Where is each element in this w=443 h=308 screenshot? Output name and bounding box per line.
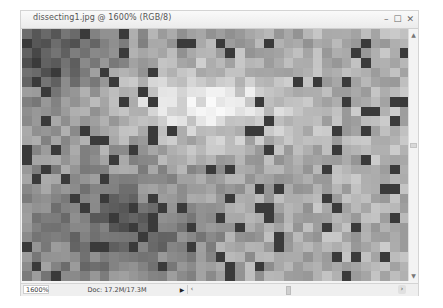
pixel [129, 77, 139, 87]
pixel [206, 232, 216, 242]
pixel [293, 107, 303, 117]
pixel [32, 155, 42, 165]
maximize-button[interactable]: ☐ [393, 13, 401, 25]
pixel [274, 271, 284, 281]
minimize-button[interactable]: – [384, 13, 389, 25]
pixel [284, 174, 294, 184]
pixel [167, 213, 177, 223]
pixel [41, 136, 51, 146]
pixel [322, 39, 332, 49]
pixel [32, 116, 42, 126]
pixel [313, 68, 323, 78]
pixel [313, 97, 323, 107]
pixel [138, 136, 148, 146]
pixel [80, 271, 90, 281]
pixel [41, 194, 51, 204]
pixel [148, 262, 158, 272]
vertical-scrollbar[interactable]: ▲ ▼ [408, 29, 418, 281]
pixel [167, 87, 177, 97]
pixel [235, 48, 245, 58]
pixel [313, 116, 323, 126]
pixel [148, 194, 158, 204]
pixel [196, 223, 206, 233]
pixel [342, 232, 352, 242]
pixel [225, 242, 235, 252]
scroll-down-icon[interactable]: ▼ [409, 271, 418, 280]
pixel [313, 271, 323, 281]
pixel [351, 126, 361, 136]
pixel [332, 48, 342, 58]
image-canvas[interactable] [22, 29, 410, 281]
pixel [80, 252, 90, 262]
pixel [284, 271, 294, 281]
pixel [332, 194, 342, 204]
pixel [167, 223, 177, 233]
vertical-scroll-thumb[interactable] [410, 143, 417, 148]
pixel [119, 203, 129, 213]
pixel [129, 184, 139, 194]
pixel [245, 174, 255, 184]
pixel [51, 242, 61, 252]
pixel [322, 232, 332, 242]
pixel [148, 165, 158, 175]
pixel [158, 116, 168, 126]
pixel [322, 174, 332, 184]
pixel [90, 184, 100, 194]
scroll-left-icon[interactable]: ‹ [187, 285, 196, 294]
pixel [100, 262, 110, 272]
pixel [32, 223, 42, 233]
pixel [61, 194, 71, 204]
pixel [390, 262, 400, 272]
status-menu-arrow-icon[interactable]: ▶ [178, 285, 186, 294]
pixel [274, 262, 284, 272]
pixel [167, 97, 177, 107]
pixel [100, 223, 110, 233]
pixel [380, 174, 390, 184]
pixel [90, 194, 100, 204]
pixel [119, 242, 129, 252]
pixel [138, 58, 148, 68]
pixel [41, 203, 51, 213]
pixel [51, 271, 61, 281]
pixel [41, 232, 51, 242]
scroll-up-icon[interactable]: ▲ [409, 30, 418, 39]
pixel [216, 184, 226, 194]
pixel [177, 232, 187, 242]
horizontal-scrollbar[interactable] [196, 285, 402, 294]
pixel [235, 174, 245, 184]
pixel [70, 155, 80, 165]
pixel [255, 242, 265, 252]
pixel [109, 136, 119, 146]
pixel [371, 107, 381, 117]
pixel [100, 87, 110, 97]
pixel [216, 262, 226, 272]
pixel [196, 48, 206, 58]
close-button[interactable]: ✕ [406, 13, 414, 25]
horizontal-scroll-thumb[interactable] [286, 286, 291, 295]
pixel [138, 155, 148, 165]
pixel [167, 136, 177, 146]
title-bar[interactable]: dissecting1.jpg @ 1600% (RGB/8) – ☐ ✕ [21, 11, 418, 29]
pixel [255, 203, 265, 213]
pixel [380, 68, 390, 78]
pixel [225, 58, 235, 68]
pixel [342, 262, 352, 272]
pixel [22, 165, 32, 175]
pixel [158, 203, 168, 213]
pixel [371, 29, 381, 39]
pixel [70, 174, 80, 184]
pixel [32, 126, 42, 136]
pixel [361, 97, 371, 107]
pixel [313, 77, 323, 87]
pixel [303, 194, 313, 204]
pixel [22, 271, 32, 281]
pixel [303, 252, 313, 262]
pixel [61, 97, 71, 107]
pixel [313, 39, 323, 49]
pixel [274, 77, 284, 87]
pixel [303, 136, 313, 146]
zoom-level-field[interactable]: 1600% [23, 285, 49, 294]
pixel [158, 58, 168, 68]
pixel [61, 252, 71, 262]
scroll-right-icon[interactable]: › [398, 285, 406, 294]
